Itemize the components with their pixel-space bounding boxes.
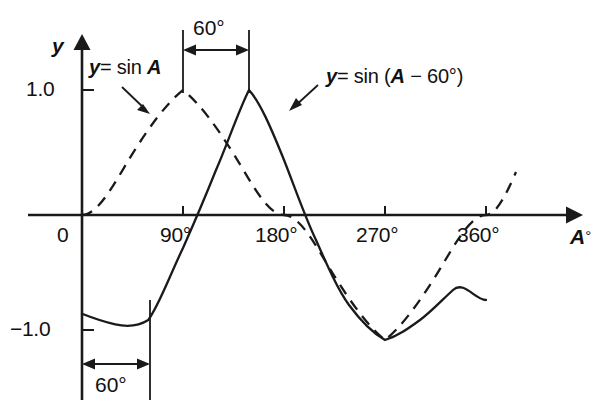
leader-arrow-solid-label (289, 85, 318, 111)
y-tick-label-minus-1: −1.0 (10, 318, 50, 339)
curve-label-shift-suffix: − 60°) (405, 65, 463, 87)
top-dimension-label: 60° (193, 17, 225, 38)
bottom-dimension-label: 60° (95, 374, 127, 395)
curve-label-sin-a: y= sin A (89, 57, 161, 77)
y-axis-arrowhead (74, 34, 91, 50)
x-tick-label-270: 270° (356, 224, 398, 245)
curve-label-sin-a-eq: = sin (100, 56, 147, 78)
leader-arrow-dashed-label (122, 87, 150, 114)
curve-label-sin-a-var: A (147, 56, 161, 78)
sine-curve-figure: y 1.0 −1.0 0 90° 180° 270° 360° A° y= si… (0, 0, 616, 410)
top-dimension-group (183, 30, 249, 93)
bottom-dimension-arrowhead-right (137, 359, 150, 370)
x-tick-label-0: 0 (57, 224, 68, 245)
curve-label-shift-eq: = sin ( (337, 65, 391, 87)
x-axis-label: A° (570, 226, 591, 247)
top-dimension-arrowhead-right (236, 45, 249, 56)
curve-label-sin-a-minus-60: y= sin (A − 60°) (326, 66, 463, 86)
y-axis-label: y (52, 35, 64, 56)
curve-label-shift-y: y (326, 65, 337, 87)
curve-label-sin-a-y: y (89, 56, 100, 78)
y-tick-label-1: 1.0 (26, 78, 54, 99)
x-tick-label-180: 180° (255, 224, 297, 245)
leader-arrowhead-dashed (137, 104, 150, 114)
curve-label-shift-var: A (391, 65, 405, 87)
x-axis-label-letter: A (570, 225, 585, 248)
top-dimension-arrowhead-left (183, 45, 196, 56)
x-tick-label-360: 360° (457, 224, 499, 245)
x-tick-label-90: 90° (160, 224, 191, 245)
bottom-dimension-arrowhead-left (82, 359, 95, 370)
axis-ticks (82, 90, 486, 330)
x-axis-label-degree-sign: ° (585, 227, 591, 244)
x-axis-arrowhead (566, 207, 583, 224)
leader-arrowhead-solid (289, 98, 302, 111)
